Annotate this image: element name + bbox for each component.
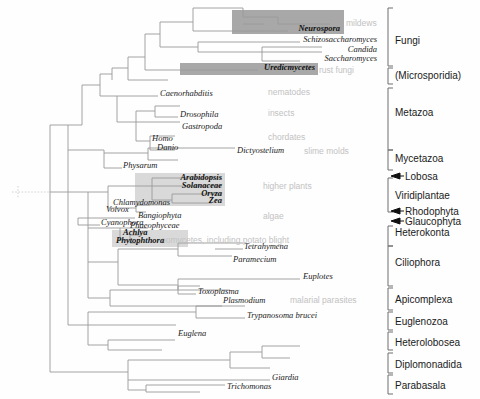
taxon-label: Tetrahymena (244, 241, 288, 251)
group-bracket (388, 150, 393, 170)
group-bracket (388, 88, 393, 150)
group-label: Ciliophora (395, 257, 440, 268)
group-bracket (388, 178, 393, 212)
group-label: Heterolobosea (395, 337, 460, 348)
annotation-label: chordates (268, 132, 305, 142)
annotation-label: algae (263, 211, 284, 221)
annotation-label: malarial parasites (290, 295, 357, 305)
taxon-label: Uredicmycetes (264, 62, 316, 72)
group-bracket (388, 332, 393, 350)
group-bracket (388, 312, 393, 330)
group-bracket (388, 353, 393, 373)
group-bracket (388, 375, 393, 394)
annotation-label: slime molds (304, 146, 349, 156)
root-stub (12, 186, 50, 198)
annotation-label: insects (268, 108, 294, 118)
taxon-label: Danio (156, 142, 178, 152)
group-label: Diplomonadida (395, 359, 462, 370)
group-label: Euglenozoa (395, 316, 448, 327)
group-label: Metazoa (395, 107, 434, 118)
group-label: Fungi (395, 35, 420, 46)
taxon-label: Plasmodium (222, 295, 266, 305)
taxon-label: Euglena (177, 328, 206, 338)
taxon-label: Physarum (122, 160, 157, 170)
group-label: Heterokonta (395, 227, 450, 238)
taxon-label: Paramecium (232, 254, 276, 264)
taxon-label: Phytophthora (116, 235, 165, 245)
taxon-label: Saccharomyces (324, 53, 377, 63)
group-label: Glaucophyta (405, 216, 462, 227)
taxon-label: Zea (208, 195, 223, 205)
taxon-label: Volvox (106, 204, 129, 214)
taxon-label: Euplotes (302, 271, 333, 281)
taxon-label: Caenorhabditis (160, 88, 213, 98)
group-label: Lobosa (405, 171, 438, 182)
annotation-label: higher plants (263, 181, 312, 191)
taxon-label: Neurospora (297, 23, 340, 33)
group-label: Apicomplexa (395, 294, 453, 305)
phylogenetic-tree-figure: mildewsrust funginematodesinsectschordat… (0, 0, 480, 399)
taxon-label: Bangiophyta (138, 210, 181, 220)
annotation-label: mildews (346, 18, 377, 28)
group-bracket (388, 68, 393, 84)
taxon-label: Dictyostelium (236, 145, 284, 155)
taxon-label: Giardia (272, 372, 299, 382)
group-arrow-icon (391, 218, 400, 224)
group-label: Mycetazoa (395, 153, 444, 164)
taxon-label: Drosophila (179, 109, 218, 119)
group-label: Parabasala (395, 380, 446, 391)
group-bracket (388, 246, 393, 286)
group-brackets-layer: LobosaFungi(Microsporidia)MetazoaMycetaz… (388, 8, 462, 394)
group-label: Viridiplantae (395, 190, 450, 201)
group-bracket (388, 288, 393, 310)
taxon-labels-layer: NeurosporaSchizosaccharomycesCandidaSacc… (101, 23, 378, 391)
group-bracket (388, 226, 393, 246)
group-label: (Microsporidia) (395, 70, 461, 81)
annotation-label: rust fungi (319, 65, 354, 75)
annotation-label: nematodes (268, 87, 310, 97)
tree-canvas: mildewsrust funginematodesinsectschordat… (0, 0, 480, 399)
taxon-label: Schizosaccharomyces (303, 34, 377, 44)
taxon-label: Trypanosoma brucei (247, 310, 318, 320)
group-arrow-icon (391, 208, 400, 214)
taxon-label: Gastropoda (182, 121, 222, 131)
taxon-label: Trichomonas (227, 381, 272, 391)
group-bracket (388, 8, 393, 66)
